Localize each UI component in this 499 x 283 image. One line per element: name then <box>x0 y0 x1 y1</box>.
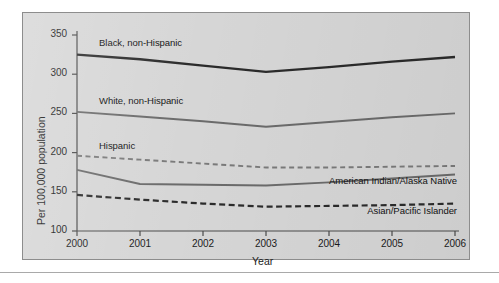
series-line-1 <box>77 112 455 127</box>
series-label-2: Hispanic <box>99 140 135 151</box>
series-label-3: American Indian/Alaska Native <box>329 175 457 186</box>
plot-area: 100150200250300350 200020012002200320042… <box>23 13 471 261</box>
chart-figure-panel: 100150200250300350 200020012002200320042… <box>22 12 470 260</box>
y-axis-title: Per 100,000 population <box>35 116 47 225</box>
page-divider-rule <box>0 272 499 273</box>
x-tick-label: 2002 <box>183 238 223 249</box>
x-tick-label: 2000 <box>57 238 97 249</box>
x-tick-label: 2006 <box>435 238 475 249</box>
figure-root: 100150200250300350 200020012002200320042… <box>0 0 499 283</box>
y-tick-label: 350 <box>37 28 67 39</box>
x-tick-label: 2005 <box>372 238 412 249</box>
x-tick-label: 2004 <box>309 238 349 249</box>
series-line-0 <box>77 55 455 72</box>
x-axis-title: Year <box>252 255 273 267</box>
line-chart-svg <box>23 13 471 261</box>
y-tick-label: 300 <box>37 67 67 78</box>
series-label-4: Asian/Pacific Islander <box>367 205 457 216</box>
x-tick-label: 2001 <box>120 238 160 249</box>
x-tick-label: 2003 <box>246 238 286 249</box>
series-line-2 <box>77 156 455 168</box>
y-tick-label: 100 <box>37 224 67 235</box>
series-label-1: White, non-Hispanic <box>99 95 183 106</box>
series-label-0: Black, non-Hispanic <box>99 37 182 48</box>
